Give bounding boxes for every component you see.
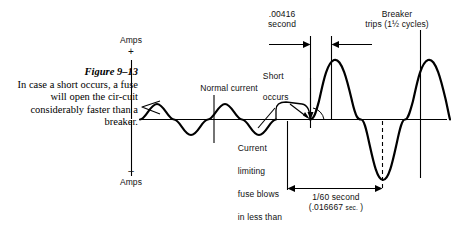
figure-caption-body: In case a short occurs, a fuse will open… xyxy=(2,79,138,129)
axis-label-amps-positive: Amps xyxy=(101,35,161,46)
annotation-cycle-period-close: ) xyxy=(358,202,363,212)
annotation-breaker-line1: Breaker xyxy=(351,9,443,20)
annotation-fuse-note: Current limiting fuse blows in less than… xyxy=(228,131,286,228)
annotation-short-occurs-line2: occurs xyxy=(263,92,289,102)
annotation-fuse-note-line2: limiting xyxy=(238,166,265,176)
annotation-short-occurs: Short occurs xyxy=(253,60,293,113)
annotation-cycle-period-open: (.016667 xyxy=(309,202,346,212)
annotation-fuse-note-line4: in less than xyxy=(238,212,282,222)
annotation-cycle-period-unit: sec. xyxy=(346,204,358,211)
annotation-fuse-note-line1: Current xyxy=(238,143,267,153)
axis-sign-negative: – xyxy=(101,166,161,177)
figure-caption-title: Figure 9–13 xyxy=(2,66,138,78)
figure-caption: Figure 9–13 In case a short occurs, a fu… xyxy=(2,66,138,129)
interval-arrow-right-head xyxy=(332,41,340,48)
annotation-cycle-period: 1/60 second xyxy=(286,192,386,203)
annotation-short-occurs-line1: Short xyxy=(263,71,284,81)
annotation-breaker-line2: trips (1½ cycles) xyxy=(351,19,443,30)
cycle-period-arrow-left xyxy=(288,185,296,192)
cycle-period-arrow-right xyxy=(375,185,383,192)
axis-label-amps-negative: Amps xyxy=(101,177,161,188)
axis-sign-positive: + xyxy=(101,47,161,58)
annotation-cycle-period-seconds: (.016667 sec. ) xyxy=(286,202,386,214)
annotation-interval-unit: second xyxy=(246,19,318,30)
interval-arrow-left-head xyxy=(303,41,311,48)
annotation-fuse-note-line3: fuse blows xyxy=(238,189,279,199)
figure-container: Figure 9–13 In case a short occurs, a fu… xyxy=(0,0,451,228)
annotation-interval-value: .00416 xyxy=(246,9,318,20)
